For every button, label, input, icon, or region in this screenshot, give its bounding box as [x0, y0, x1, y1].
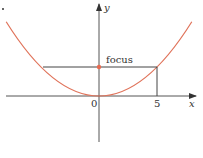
parabola-diagram: y x 0 5 focus: [0, 0, 203, 158]
y-axis-label: y: [103, 2, 110, 13]
x-tick-5-label: 5: [154, 98, 160, 109]
origin-label: 0: [91, 98, 97, 109]
stray-dot: [2, 8, 4, 10]
x-axis-label: x: [189, 98, 195, 109]
focus-dot: [97, 65, 101, 69]
focus-label: focus: [106, 54, 133, 65]
